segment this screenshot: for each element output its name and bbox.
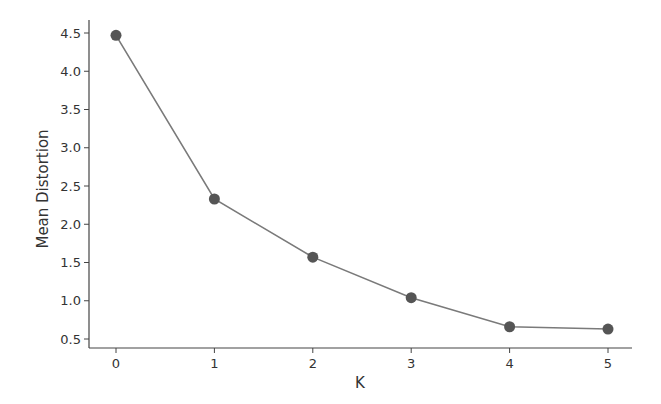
- x-tick-label: 1: [210, 356, 218, 371]
- data-point-marker: [307, 252, 318, 263]
- y-tick-label: 3.5: [60, 102, 81, 117]
- y-tick-label: 3.0: [60, 140, 81, 155]
- data-series: [111, 30, 614, 335]
- x-tick-label: 0: [112, 356, 120, 371]
- x-tick-label: 4: [505, 356, 513, 371]
- y-tick-label: 1.5: [60, 255, 81, 270]
- y-tick-label: 2.5: [60, 179, 81, 194]
- y-tick-label: 1.0: [60, 293, 81, 308]
- x-tick-label: 5: [604, 356, 612, 371]
- y-tick-label: 0.5: [60, 332, 81, 347]
- data-point-marker: [209, 194, 220, 205]
- data-point-marker: [111, 30, 122, 41]
- data-point-marker: [603, 324, 614, 335]
- line-chart: 0.51.01.52.02.53.03.54.04.5 012345 K Mea…: [0, 0, 661, 404]
- y-axis-label: Mean Distortion: [34, 129, 52, 248]
- data-point-marker: [406, 292, 417, 303]
- x-tick-label: 2: [309, 356, 317, 371]
- data-point-marker: [504, 321, 515, 332]
- y-tick-label: 4.5: [60, 26, 81, 41]
- x-ticks: 012345: [112, 348, 612, 371]
- y-ticks: 0.51.01.52.02.53.03.54.04.5: [60, 26, 89, 347]
- y-tick-label: 2.0: [60, 217, 81, 232]
- x-tick-label: 3: [407, 356, 415, 371]
- axes: [89, 20, 632, 348]
- x-axis-label: K: [355, 374, 366, 392]
- y-tick-label: 4.0: [60, 64, 81, 79]
- series-line: [116, 35, 608, 329]
